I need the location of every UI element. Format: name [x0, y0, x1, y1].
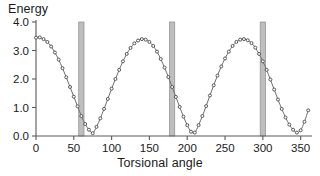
data-point-marker — [292, 128, 295, 131]
data-point-marker — [197, 124, 200, 127]
data-point-marker — [205, 105, 208, 108]
data-point-marker — [65, 76, 68, 79]
data-point-marker — [103, 107, 106, 110]
data-point-marker — [99, 117, 102, 120]
data-point-marker — [178, 105, 181, 108]
data-point-marker — [95, 125, 98, 128]
x-tick-label: 350 — [291, 142, 310, 154]
data-point-marker — [254, 46, 257, 49]
data-point-marker — [76, 105, 79, 108]
data-point-marker — [220, 65, 223, 68]
data-point-marker — [295, 131, 298, 134]
barrier-60 — [79, 22, 84, 136]
y-tick-label: 4.0 — [13, 16, 29, 28]
data-point-marker — [121, 60, 124, 63]
data-point-marker — [261, 60, 264, 63]
data-point-marker — [250, 42, 253, 45]
data-point-marker — [239, 38, 242, 41]
data-point-marker — [152, 44, 155, 47]
data-point-marker — [307, 109, 310, 112]
data-point-marker — [84, 123, 87, 126]
data-point-marker — [224, 57, 227, 60]
data-point-marker — [110, 87, 113, 90]
data-point-marker — [155, 50, 158, 53]
data-point-marker — [288, 123, 291, 126]
data-point-marker — [133, 42, 136, 45]
data-point-marker — [212, 84, 215, 87]
data-point-marker — [190, 130, 193, 133]
data-point-marker — [193, 131, 196, 134]
data-point-marker — [246, 39, 249, 42]
data-point-marker — [174, 95, 177, 98]
data-point-marker — [129, 46, 132, 49]
data-point-marker — [242, 38, 245, 41]
data-point-marker — [231, 44, 234, 47]
data-point-marker — [235, 40, 238, 43]
data-point-marker — [186, 124, 189, 127]
data-point-marker — [140, 38, 143, 41]
data-point-marker — [35, 36, 38, 39]
data-point-marker — [216, 74, 219, 77]
data-point-marker — [69, 85, 72, 88]
x-axis-title: Torsional angle — [0, 156, 320, 170]
data-point-marker — [159, 58, 162, 61]
data-point-marker — [57, 58, 60, 61]
data-point-marker — [137, 39, 140, 42]
x-axis-ticks: 050100150200250300350 — [33, 136, 310, 154]
x-tick-label: 100 — [102, 142, 121, 154]
data-point-marker — [114, 78, 117, 81]
data-point-marker — [61, 67, 64, 70]
barrier-300 — [260, 22, 265, 136]
data-point-marker — [144, 38, 147, 41]
data-point-marker — [50, 45, 53, 48]
x-tick-label: 250 — [215, 142, 234, 154]
data-point-marker — [171, 85, 174, 88]
data-point-marker — [87, 128, 90, 131]
data-point-marker — [201, 115, 204, 118]
data-point-marker — [258, 52, 261, 55]
data-point-marker — [118, 68, 121, 71]
data-point-marker — [106, 97, 109, 100]
y-axis-ticks: 0.01.02.03.04.0 — [13, 16, 36, 142]
data-point-marker — [299, 129, 302, 132]
y-tick-label: 2.0 — [13, 73, 29, 85]
x-tick-label: 150 — [140, 142, 159, 154]
y-tick-label: 1.0 — [13, 102, 29, 114]
x-tick-label: 200 — [178, 142, 197, 154]
y-tick-label: 3.0 — [13, 45, 29, 57]
chart-figure: Energy 0.01.02.03.04.0050100150200250300… — [0, 0, 320, 176]
data-point-marker — [72, 95, 75, 98]
x-tick-label: 50 — [67, 142, 80, 154]
data-point-marker — [269, 78, 272, 81]
x-tick-label: 300 — [253, 142, 272, 154]
data-point-marker — [53, 51, 56, 54]
data-point-marker — [125, 52, 128, 55]
data-point-marker — [80, 115, 83, 118]
y-tick-label: 0.0 — [13, 130, 29, 142]
data-point-marker — [303, 120, 306, 123]
data-point-marker — [163, 66, 166, 69]
data-point-marker — [265, 68, 268, 71]
data-point-marker — [280, 107, 283, 110]
data-point-marker — [227, 50, 230, 53]
data-point-marker — [91, 132, 94, 135]
data-point-marker — [273, 88, 276, 91]
data-point-marker — [182, 115, 185, 118]
plot-area: 0.01.02.03.04.0050100150200250300350 — [0, 0, 320, 176]
data-point-marker — [148, 40, 151, 43]
x-tick-label: 0 — [33, 142, 39, 154]
data-point-marker — [208, 94, 211, 97]
data-point-marker — [46, 40, 49, 43]
barrier-bars-group — [79, 22, 266, 136]
data-point-marker — [167, 76, 170, 79]
barrier-180 — [169, 22, 174, 136]
data-point-marker — [42, 38, 45, 41]
data-point-marker — [276, 98, 279, 101]
data-point-marker — [284, 116, 287, 119]
data-point-marker — [38, 36, 41, 39]
